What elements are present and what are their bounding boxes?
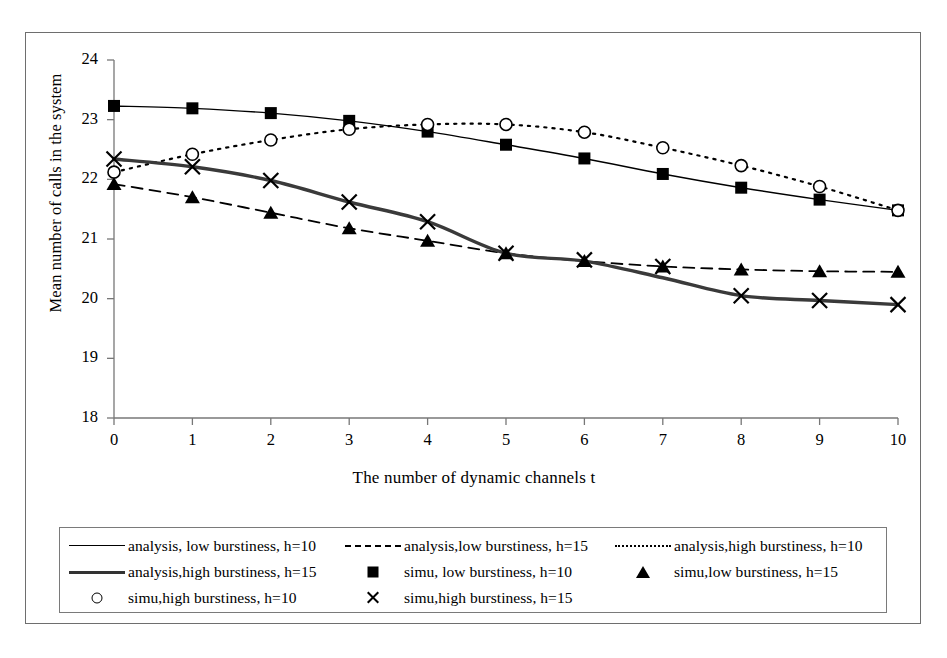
circle-marker-icon — [92, 593, 103, 604]
legend-line-solid-thick — [69, 571, 125, 574]
legend-line-sample — [612, 534, 674, 558]
legend-label: simu,low burstiness, h=15 — [674, 563, 838, 581]
series-markers — [107, 177, 906, 278]
cross-marker-icon — [366, 591, 381, 606]
legend-line-sample — [342, 534, 404, 558]
legend-line-solid-thin — [69, 545, 125, 546]
chart-legend: analysis, low burstiness, h=10analysis,l… — [59, 527, 887, 613]
legend-entry[interactable]: analysis, low burstiness, h=10 — [66, 532, 316, 560]
figure-frame: Mean number of calls in the system The n… — [25, 32, 921, 624]
series-line — [114, 124, 898, 211]
square-marker-icon — [368, 567, 379, 578]
plot-area: Mean number of calls in the system The n… — [26, 33, 922, 503]
legend-marker-sample — [612, 560, 674, 584]
legend-label: analysis,high burstiness, h=10 — [674, 537, 862, 555]
series-markers — [107, 152, 906, 313]
legend-entry[interactable]: analysis,high burstiness, h=15 — [66, 558, 316, 586]
legend-label: simu,high burstiness, h=15 — [404, 589, 573, 607]
chart-canvas — [26, 33, 922, 503]
legend-line-sample — [66, 560, 128, 584]
legend-label: simu, low burstiness, h=10 — [404, 563, 572, 581]
legend-marker-sample — [66, 586, 128, 610]
legend-entry[interactable]: simu,high burstiness, h=15 — [342, 584, 573, 612]
legend-entry[interactable]: simu, low burstiness, h=10 — [342, 558, 572, 586]
legend-line-sample — [66, 534, 128, 558]
legend-entry[interactable]: simu,low burstiness, h=15 — [612, 558, 838, 586]
legend-line-dashed — [345, 545, 401, 547]
legend-marker-sample — [342, 586, 404, 610]
legend-line-dotted — [615, 545, 671, 547]
legend-entry[interactable]: analysis,high burstiness, h=10 — [612, 532, 862, 560]
legend-label: analysis, low burstiness, h=10 — [128, 537, 316, 555]
legend-entry[interactable]: simu,high burstiness, h=10 — [66, 584, 297, 612]
legend-label: analysis,low burstiness, h=15 — [404, 537, 588, 555]
legend-entry[interactable]: analysis,low burstiness, h=15 — [342, 532, 588, 560]
legend-label: analysis,high burstiness, h=15 — [128, 563, 316, 581]
legend-marker-sample — [342, 560, 404, 584]
series-markers — [108, 100, 904, 216]
series-line — [114, 159, 898, 305]
series-markers — [108, 118, 904, 216]
triangle-marker-icon — [636, 566, 650, 578]
legend-label: simu,high burstiness, h=10 — [128, 589, 297, 607]
